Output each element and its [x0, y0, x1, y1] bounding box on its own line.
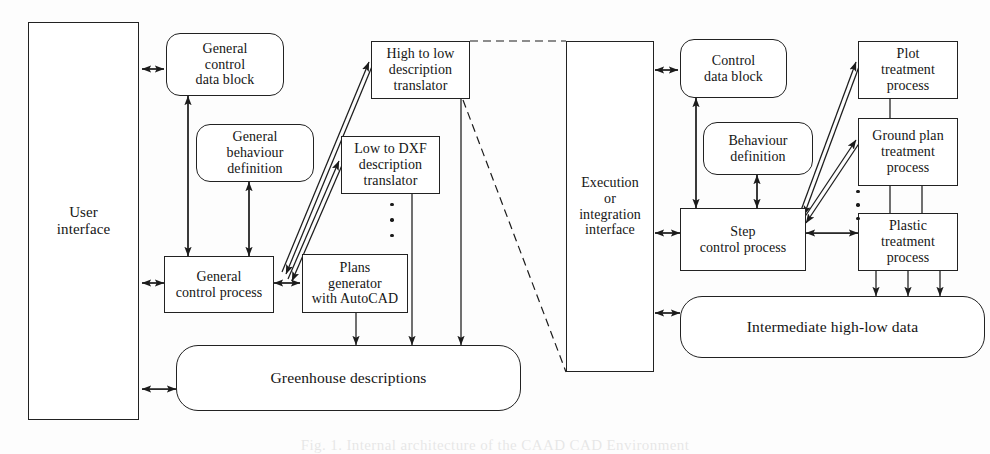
diagram-canvas: User interface General control data bloc… — [0, 0, 990, 454]
general-control-data-block[interactable]: General control data block — [166, 33, 284, 96]
behaviour-definition[interactable]: Behaviour definition — [703, 122, 813, 175]
expansion-dashed-lines — [463, 41, 566, 372]
control-data-block[interactable]: Control data block — [680, 39, 787, 98]
user-interface-panel[interactable]: User interface — [28, 22, 139, 420]
ground-plan-treatment-process[interactable]: Ground plan treatment process — [858, 118, 958, 186]
step-control-process[interactable]: Step control process — [680, 208, 806, 271]
execution-or-integration-interface-panel[interactable]: Execution or integration interface — [566, 41, 654, 372]
high-to-low-description-translator[interactable]: High to low description translator — [371, 41, 470, 99]
plans-generator-with-autocad[interactable]: Plans generator with AutoCAD — [302, 254, 408, 313]
general-control-process[interactable]: General control process — [164, 256, 274, 313]
greenhouse-descriptions[interactable]: Greenhouse descriptions — [176, 345, 521, 411]
intermediate-high-low-data[interactable]: Intermediate high-low data — [680, 296, 985, 358]
plastic-treatment-process[interactable]: Plastic treatment process — [858, 213, 958, 271]
figure-caption: Fig. 1. Internal architecture of the CAA… — [0, 437, 990, 454]
low-to-dxf-description-translator[interactable]: Low to DXF description translator — [341, 136, 440, 194]
translator-ellipsis — [389, 203, 395, 237]
treatment-ellipsis — [855, 190, 861, 220]
plot-treatment-process[interactable]: Plot treatment process — [858, 41, 958, 99]
general-behaviour-definition[interactable]: General behaviour definition — [196, 124, 314, 182]
